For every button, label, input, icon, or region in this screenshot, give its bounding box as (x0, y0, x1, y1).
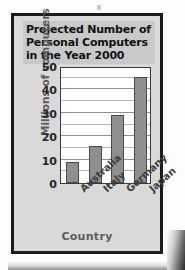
y-tick-10: 10 (42, 154, 57, 167)
chart-panel: Projected Number of Personal Computers i… (14, 16, 160, 251)
y-tick-40: 40 (42, 84, 57, 97)
y-tick-30: 30 (42, 107, 57, 120)
y-tick-20: 20 (42, 131, 57, 144)
x-tick-japan: Japan (147, 186, 154, 194)
y-axis-tick-labels: 01020304050 (36, 67, 57, 184)
scan-edge-artifact-corner (167, 230, 185, 270)
chart-figure: Projected Number of Personal Computers i… (0, 0, 185, 270)
x-tick-italy: Italy (101, 186, 108, 194)
y-tick-0: 0 (49, 178, 57, 191)
bar-australia (66, 162, 79, 183)
chart-frame: Projected Number of Personal Computers i… (11, 13, 163, 254)
x-axis-label: Country (14, 230, 160, 243)
page-artifact-mark (97, 5, 101, 10)
y-tick-50: 50 (42, 61, 57, 74)
x-tick-australia: Australia (78, 186, 85, 194)
scan-edge-artifact-bottom (8, 261, 185, 270)
x-tick-germany: Germany (124, 186, 131, 194)
x-axis-tick-labels: AustraliaItalyGermanyJapan (60, 184, 151, 230)
